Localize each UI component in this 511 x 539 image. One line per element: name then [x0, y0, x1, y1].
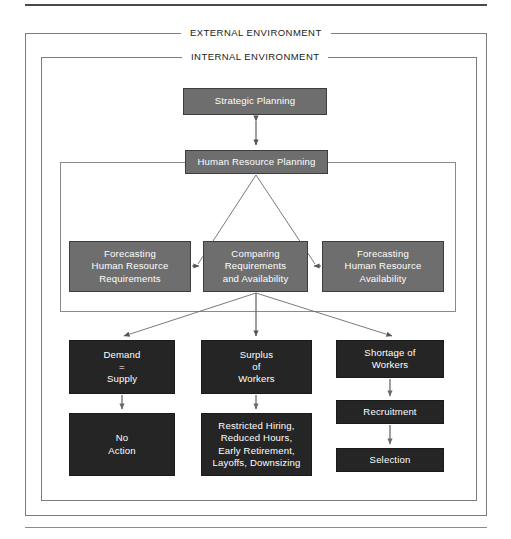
- top-rule: [25, 4, 487, 6]
- node-demand-equals-supply[interactable]: Demand=Supply: [69, 340, 175, 394]
- node-comparing-label: ComparingRequirementsand Availability: [220, 248, 292, 285]
- bottom-rule: [25, 527, 487, 528]
- node-forecasting-requirements-label: ForecastingHuman ResourceRequirements: [89, 248, 172, 285]
- node-demand-equals-supply-label: Demand=Supply: [100, 349, 143, 386]
- node-comparing-requirements-availability[interactable]: ComparingRequirementsand Availability: [203, 241, 308, 292]
- node-no-action[interactable]: NoAction: [69, 413, 175, 476]
- node-human-resource-planning[interactable]: Human Resource Planning: [185, 150, 328, 174]
- external-environment-label: EXTERNAL ENVIRONMENT: [181, 27, 331, 39]
- node-forecasting-availability-label: ForecastingHuman ResourceAvailability: [342, 248, 425, 285]
- node-surplus-of-workers-label: SurplusofWorkers: [235, 349, 278, 386]
- node-recruitment-label: Recruitment: [360, 406, 419, 418]
- node-no-action-label: NoAction: [105, 432, 139, 457]
- diagram-canvas: EXTERNAL ENVIRONMENT INTERNAL ENVIRONMEN…: [0, 0, 511, 539]
- internal-environment-label: INTERNAL ENVIRONMENT: [182, 51, 328, 63]
- node-surplus-of-workers[interactable]: SurplusofWorkers: [201, 340, 312, 394]
- node-forecasting-requirements[interactable]: ForecastingHuman ResourceRequirements: [69, 241, 191, 292]
- node-shortage-of-workers-label: Shortage ofWorkers: [361, 347, 418, 372]
- node-human-resource-planning-label: Human Resource Planning: [194, 156, 318, 168]
- node-recruitment[interactable]: Recruitment: [336, 400, 444, 424]
- node-shortage-of-workers[interactable]: Shortage ofWorkers: [336, 340, 444, 378]
- node-selection[interactable]: Selection: [336, 448, 444, 472]
- node-strategic-planning-label: Strategic Planning: [212, 95, 299, 107]
- node-strategic-planning[interactable]: Strategic Planning: [183, 88, 327, 115]
- node-forecasting-availability[interactable]: ForecastingHuman ResourceAvailability: [322, 241, 444, 292]
- node-restricted-actions[interactable]: Restricted Hiring,Reduced Hours,Early Re…: [201, 413, 312, 476]
- node-selection-label: Selection: [367, 454, 414, 466]
- node-restricted-actions-label: Restricted Hiring,Reduced Hours,Early Re…: [210, 420, 304, 469]
